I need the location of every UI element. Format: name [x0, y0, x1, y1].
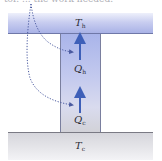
heat-cold-label: Qc: [74, 114, 86, 126]
heat-hot-label: Qh: [74, 63, 86, 75]
hot-reservoir-label: Th: [75, 17, 86, 29]
dotted-pointer-upper-icon: [31, 4, 72, 52]
cold-reservoir-label: Tc: [75, 140, 85, 152]
dotted-pointer-lower-icon: [27, 4, 72, 105]
